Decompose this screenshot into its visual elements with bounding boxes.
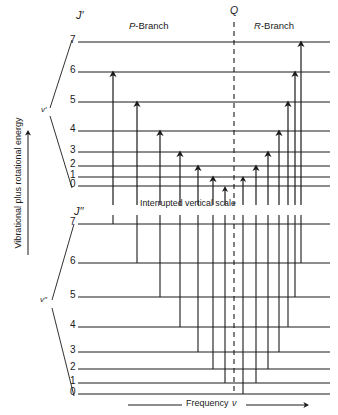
r-branch-label: R-Branch [254, 21, 294, 31]
upper-tick-2: 2 [70, 159, 76, 169]
p-branch-arrows [113, 74, 225, 205]
upper-tick-3: 3 [70, 145, 76, 155]
upper-level-lines [84, 42, 330, 186]
p-branch-drop-lines [113, 215, 225, 383]
r-branch-suffix: -Branch [261, 20, 294, 31]
interrupted-scale-note: Interrupted vertical scale [140, 199, 236, 208]
lower-level-lines [84, 224, 330, 394]
upper-tick-0: 0 [70, 179, 76, 189]
lower-level-ticks [78, 224, 84, 394]
lower-tick-2: 2 [70, 362, 76, 372]
r-branch-arrows [243, 44, 301, 205]
lower-tick-3: 3 [70, 345, 76, 355]
lower-tick-1: 1 [70, 376, 76, 386]
x-axis-label: Frequency [186, 399, 229, 408]
upper-level-ticks [78, 42, 84, 186]
upper-tick-7: 7 [70, 35, 76, 45]
upper-vib-bracket [50, 40, 72, 188]
lower-tick-0: 0 [70, 387, 76, 397]
energy-level-diagram: Vibrational plus rotational energy [0, 0, 338, 415]
p-branch-label: P-Branch [129, 21, 169, 31]
q-branch-label: Q [230, 5, 238, 16]
lower-tick-7: 7 [70, 217, 76, 227]
lower-vib-label: v′′ [40, 296, 47, 304]
lower-tick-5: 5 [70, 290, 76, 300]
p-branch-suffix: -Branch [135, 20, 168, 31]
upper-tick-5: 5 [70, 95, 76, 105]
upper-vib-label: v′ [41, 106, 47, 114]
lower-tick-4: 4 [70, 320, 76, 330]
upper-state-label: J′ [76, 10, 84, 21]
r-branch-drop-lines [243, 215, 301, 394]
lower-tick-6: 6 [70, 256, 76, 266]
upper-tick-6: 6 [70, 65, 76, 75]
upper-tick-4: 4 [70, 124, 76, 134]
x-axis-symbol: ν [232, 399, 237, 408]
r-branch-letter: R [254, 20, 261, 31]
